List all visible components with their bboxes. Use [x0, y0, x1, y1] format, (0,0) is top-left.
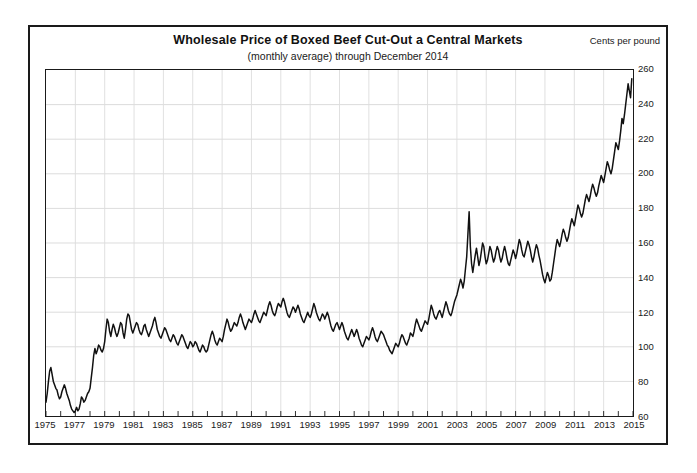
x-tick-1985: 1985	[182, 419, 203, 430]
x-tick-1975: 1975	[34, 419, 55, 430]
data-series-line	[46, 70, 633, 416]
chart-title: Wholesale Price of Boxed Beef Cut-Out a …	[30, 33, 666, 47]
plot-wrapper	[45, 69, 634, 417]
plot-area	[45, 69, 634, 417]
x-tick-2013: 2013	[594, 419, 615, 430]
x-tick-2001: 2001	[417, 419, 438, 430]
y-tick-200: 200	[638, 168, 654, 178]
y-axis-unit-label: Cents per pound	[590, 35, 660, 46]
y-tick-220: 220	[638, 134, 654, 144]
x-axis-tick-labels: 1975197719791981198319851987198919911993…	[45, 419, 634, 439]
y-tick-240: 240	[638, 99, 654, 109]
x-tick-2011: 2011	[565, 419, 585, 430]
x-tick-2015: 2015	[623, 419, 644, 430]
y-tick-160: 160	[638, 238, 654, 248]
chart-subtitle: (monthly average) through December 2014	[30, 50, 666, 62]
x-tick-2009: 2009	[535, 419, 556, 430]
chart-frame: Wholesale Price of Boxed Beef Cut-Out a …	[28, 25, 668, 445]
x-tick-1995: 1995	[329, 419, 350, 430]
y-tick-180: 180	[638, 203, 654, 213]
x-tick-2007: 2007	[506, 419, 527, 430]
y-tick-100: 100	[638, 342, 654, 352]
y-tick-120: 120	[638, 308, 654, 318]
y-axis-tick-labels: 6080100120140160180200220240260	[638, 69, 672, 417]
x-tick-1991: 1991	[270, 419, 291, 430]
x-tick-1979: 1979	[93, 419, 114, 430]
x-tick-1993: 1993	[299, 419, 320, 430]
y-tick-80: 80	[638, 377, 649, 387]
y-tick-260: 260	[638, 64, 654, 74]
x-tick-1999: 1999	[388, 419, 409, 430]
x-tick-2003: 2003	[447, 419, 468, 430]
x-tick-1977: 1977	[64, 419, 85, 430]
x-tick-1987: 1987	[211, 419, 232, 430]
x-tick-2005: 2005	[476, 419, 497, 430]
x-tick-1983: 1983	[152, 419, 173, 430]
y-tick-140: 140	[638, 273, 654, 283]
title-block: Wholesale Price of Boxed Beef Cut-Out a …	[30, 33, 666, 62]
x-tick-1997: 1997	[358, 419, 379, 430]
x-tick-1981: 1981	[123, 419, 144, 430]
x-tick-1989: 1989	[241, 419, 262, 430]
